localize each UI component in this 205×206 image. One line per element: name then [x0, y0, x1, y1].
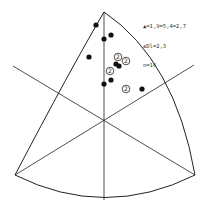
- svg-text:2: 2: [124, 57, 128, 64]
- data-point-double: 2: [106, 67, 114, 75]
- svg-text:2: 2: [108, 67, 112, 74]
- data-point-double: 2: [122, 85, 130, 93]
- data-point: [108, 32, 113, 37]
- data-point-double: 2: [122, 57, 130, 65]
- data-points-double: 2222: [106, 53, 130, 93]
- data-point: [101, 81, 106, 86]
- data-point: [108, 77, 113, 82]
- legend: ▲=1,9=5,4=2,7 ≤Dl=2,3 n=16: [143, 10, 186, 75]
- legend-line-2: ≤Dl=2,3: [143, 43, 186, 50]
- legend-line-1: ▲=1,9=5,4=2,7: [143, 23, 186, 30]
- data-point: [139, 86, 144, 91]
- data-point: [86, 54, 91, 59]
- svg-text:2: 2: [116, 53, 120, 60]
- legend-line-3: n=16: [143, 62, 186, 69]
- data-point: [93, 22, 98, 27]
- svg-text:2: 2: [124, 85, 128, 92]
- data-point: [101, 36, 106, 41]
- data-point: [116, 63, 121, 68]
- data-point-double: 2: [114, 53, 122, 61]
